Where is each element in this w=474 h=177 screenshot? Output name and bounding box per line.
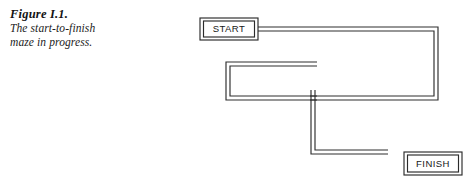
corridor-inner-rectangle-inner [230, 66, 317, 96]
corridor-start-to-right-loop-inner [258, 31, 434, 96]
figure-container: Figure I.1. The start-to-finish maze in … [0, 0, 474, 177]
node-finish[interactable]: FINISH [404, 152, 462, 175]
start-label: START [213, 23, 246, 34]
maze-corridors [226, 27, 438, 154]
node-start[interactable]: START [200, 18, 258, 40]
corridor-inner-rectangle-outer [226, 62, 317, 100]
corridor-dead-end-inner [315, 90, 388, 150]
maze-diagram: START FINISH [0, 0, 474, 177]
corridor-start-to-right-loop-outer [258, 27, 438, 100]
finish-label: FINISH [416, 158, 450, 169]
